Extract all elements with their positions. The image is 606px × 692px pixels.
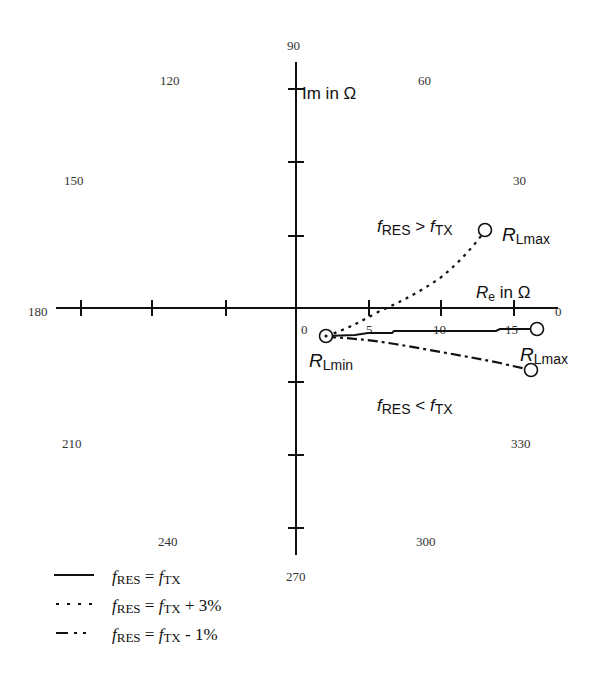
marker-rlmin-center-dot bbox=[324, 334, 327, 337]
legend-label-solid: fRES = fTX bbox=[112, 567, 181, 587]
angle-label-90: 90 bbox=[287, 38, 300, 53]
angle-label-0: 0 bbox=[555, 304, 562, 319]
series-dotted-fres-plus-3pct bbox=[326, 231, 485, 336]
tick-label-0: 0 bbox=[301, 322, 308, 337]
angle-labels: 90 120 60 150 30 180 0 210 330 240 300 2… bbox=[28, 38, 562, 584]
label-rlmax-dotted: RLmax bbox=[502, 224, 550, 247]
angle-label-300: 300 bbox=[416, 534, 436, 549]
legend-item-dotted: fRES = fTX + 3% bbox=[56, 596, 222, 616]
legend-item-dashdot: fRES = fTX - 1% bbox=[56, 625, 218, 645]
angle-label-180: 180 bbox=[28, 304, 48, 319]
angle-label-30: 30 bbox=[513, 173, 526, 188]
angle-label-60: 60 bbox=[418, 73, 431, 88]
annotation-fres-greater-ftx: fRES > fTX bbox=[377, 217, 453, 238]
axes bbox=[56, 62, 558, 555]
legend-label-dashdot: fRES = fTX - 1% bbox=[112, 625, 218, 645]
impedance-locus-chart: 90 120 60 150 30 180 0 210 330 240 300 2… bbox=[0, 0, 606, 692]
angle-label-240: 240 bbox=[158, 534, 178, 549]
marker-rlmax-dotted bbox=[479, 224, 492, 237]
label-rlmax-dashed: RLmax bbox=[520, 344, 568, 367]
marker-rlmax-solid bbox=[531, 323, 544, 336]
legend-item-solid: fRES = fTX bbox=[54, 567, 181, 587]
annotation-fres-less-ftx: fRES < fTX bbox=[377, 396, 453, 417]
angle-label-150: 150 bbox=[64, 173, 84, 188]
tick-label-5: 5 bbox=[366, 322, 373, 337]
legend-label-dotted: fRES = fTX + 3% bbox=[112, 596, 222, 616]
y-axis-title: Im in Ω bbox=[302, 84, 356, 103]
legend: fRES = fTX fRES = fTX + 3% fRES = fTX - … bbox=[54, 567, 222, 645]
series-dashed-fres-minus-1pct bbox=[326, 337, 531, 370]
angle-label-270: 270 bbox=[286, 569, 306, 584]
angle-label-330: 330 bbox=[511, 436, 531, 451]
label-rlmin: RLmin bbox=[309, 350, 353, 373]
x-axis-title: Re in Ω bbox=[476, 283, 530, 304]
tick-label-10: 10 bbox=[433, 322, 446, 337]
angle-label-210: 210 bbox=[62, 436, 82, 451]
angle-label-120: 120 bbox=[160, 73, 180, 88]
